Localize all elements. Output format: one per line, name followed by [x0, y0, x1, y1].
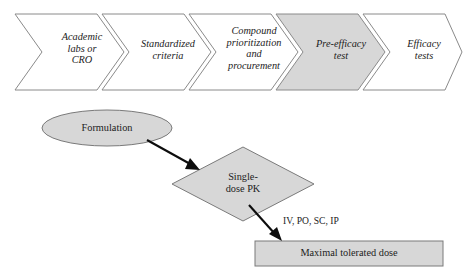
connector-single-dose-pk-to-maximal-tolerated-dose — [249, 205, 282, 241]
node-shape-formulation[interactable] — [42, 110, 172, 146]
figure-canvas: Academic labs or CRO Standardized criter… — [0, 0, 468, 272]
connector-formulation-to-single-dose-pk — [147, 140, 200, 170]
node-shape-maximal-tolerated-dose[interactable] — [255, 241, 443, 266]
diagram-vector-layer — [0, 0, 468, 272]
node-shape-single-dose-pk[interactable] — [172, 147, 314, 221]
chevron-shape-academic-labs-or-cro[interactable] — [15, 14, 124, 90]
